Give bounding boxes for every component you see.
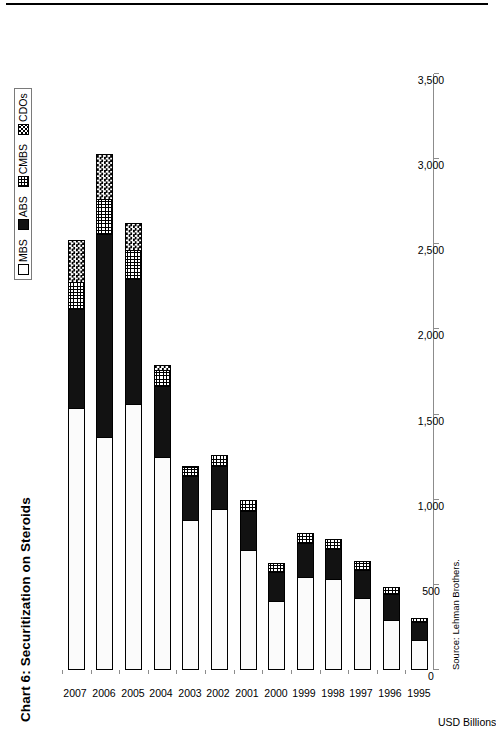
bar-segment-cmbs-2006 (97, 200, 112, 235)
category-label-2006: 2006 (87, 687, 121, 699)
category-tick (262, 670, 263, 674)
bar-segment-cdos-2005 (126, 224, 141, 251)
category-label-1996: 1996 (373, 687, 407, 699)
bar-segment-cmbs-1999 (298, 534, 313, 544)
category-label-2001: 2001 (230, 687, 264, 699)
bar-segment-mbs-1997 (355, 599, 370, 669)
bar-2006[interactable] (96, 154, 113, 670)
bar-segment-abs-2006 (97, 235, 112, 439)
bar-segment-cmbs-2003 (183, 468, 198, 477)
legend-item-cmbs[interactable]: CMBS (17, 144, 29, 187)
category-tick (148, 670, 149, 674)
bar-segment-abs-2002 (212, 467, 227, 511)
bar-segment-cmbs-2002 (212, 456, 227, 467)
category-tick (205, 670, 206, 674)
bar-segment-abs-1999 (298, 544, 313, 578)
value-tick-label: 3,500 (418, 74, 444, 86)
source-note: Source: Lehman Brothers. (450, 559, 461, 670)
value-tick (434, 669, 439, 670)
bar-segment-mbs-2004 (155, 458, 170, 669)
legend-item-cdos[interactable]: CDOs (17, 93, 29, 135)
category-tick (320, 670, 321, 674)
value-tick-label: 500 (422, 585, 440, 597)
value-tick-label: 0 (428, 670, 434, 682)
bar-segment-cdos-2003 (183, 467, 198, 468)
value-tick-label: 2,500 (418, 244, 444, 256)
bar-segment-cdos-2006 (97, 155, 112, 200)
bar-segment-abs-1998 (326, 550, 341, 580)
chart-legend: MBS ABS CMBS CDOs (14, 88, 32, 280)
value-tick-label: 1,000 (418, 500, 444, 512)
bar-segment-abs-2005 (126, 280, 141, 405)
value-tick-label: 2,000 (418, 329, 444, 341)
chart-title: Chart 6: Securitization on Steroids (18, 497, 33, 722)
solid-black-swatch-icon (18, 219, 29, 230)
category-label-2007: 2007 (58, 687, 92, 699)
plot-area: USD Billions 05001,0001,5002,0002,5003,0… (62, 74, 434, 670)
bar-1998[interactable] (325, 539, 342, 670)
category-tick (62, 670, 63, 674)
bar-segment-abs-1996 (384, 595, 399, 621)
bar-segment-mbs-1995 (412, 641, 427, 669)
bar-segment-abs-2000 (269, 573, 284, 602)
bar-segment-mbs-1996 (384, 621, 399, 669)
bar-segment-cmbs-2007 (69, 283, 84, 309)
legend-label-abs: ABS (17, 196, 29, 217)
category-tick (377, 670, 378, 674)
category-tick (348, 670, 349, 674)
bar-segment-mbs-2000 (269, 602, 284, 669)
checker-pattern-swatch-icon (18, 124, 29, 135)
bar-2000[interactable] (268, 563, 285, 670)
bar-segment-cmbs-1996 (384, 588, 399, 595)
category-tick (91, 670, 92, 674)
legend-item-abs[interactable]: ABS (17, 196, 29, 230)
bar-1996[interactable] (383, 587, 400, 670)
bar-segment-mbs-2007 (69, 409, 84, 669)
bar-segment-cmbs-2005 (126, 251, 141, 280)
legend-label-cmbs: CMBS (17, 144, 29, 174)
bar-2002[interactable] (211, 455, 228, 670)
legend-item-mbs[interactable]: MBS (17, 239, 29, 275)
bar-segment-cmbs-1998 (326, 540, 341, 550)
bar-segment-abs-2003 (183, 477, 198, 521)
bar-segment-cdos-2004 (155, 366, 170, 371)
category-tick (405, 670, 406, 674)
value-tick-label: 3,000 (418, 159, 444, 171)
value-tick-label: 1,500 (418, 415, 444, 427)
bar-segment-abs-2001 (241, 513, 256, 552)
bar-1997[interactable] (354, 561, 371, 670)
bar-segment-cmbs-1995 (412, 619, 427, 623)
category-tick (291, 670, 292, 674)
bar-2003[interactable] (182, 466, 199, 670)
bar-segment-mbs-2006 (97, 438, 112, 669)
bar-segment-cmbs-2001 (241, 501, 256, 513)
value-axis-title: USD Billions (438, 716, 496, 728)
legend-label-mbs: MBS (17, 239, 29, 262)
category-tick (234, 670, 235, 674)
bar-2001[interactable] (240, 500, 257, 670)
bar-1999[interactable] (297, 533, 314, 670)
bar-segment-abs-1997 (355, 571, 370, 599)
bar-segment-mbs-2001 (241, 551, 256, 669)
bar-segment-mbs-2003 (183, 521, 198, 669)
bar-segment-mbs-1998 (326, 580, 341, 669)
bar-2004[interactable] (154, 365, 171, 670)
legend-label-cdos: CDOs (17, 93, 29, 122)
category-tick (176, 670, 177, 674)
bar-segment-cdos-2007 (69, 241, 84, 283)
bar-segment-cmbs-2004 (155, 371, 170, 386)
category-tick (119, 670, 120, 674)
bar-2005[interactable] (125, 223, 142, 670)
bar-segment-abs-1995 (412, 623, 427, 641)
bar-2007[interactable] (68, 240, 85, 670)
bar-segment-abs-2004 (155, 387, 170, 458)
bar-segment-mbs-2002 (212, 510, 227, 669)
bar-1995[interactable] (411, 618, 428, 670)
bar-segment-mbs-2005 (126, 405, 141, 669)
grid-pattern-swatch-icon (18, 176, 29, 187)
bar-segment-abs-2007 (69, 310, 84, 409)
bar-segment-cmbs-2000 (269, 564, 284, 573)
bar-segment-mbs-1999 (298, 578, 313, 669)
